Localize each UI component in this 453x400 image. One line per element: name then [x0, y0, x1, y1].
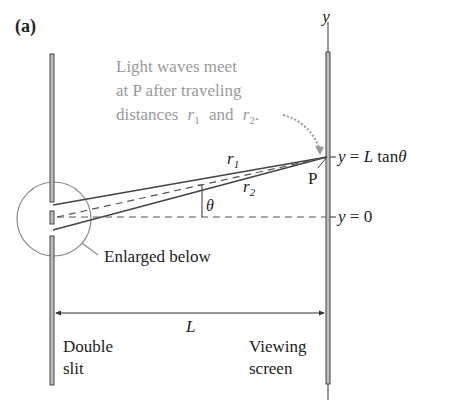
distance-label: L — [185, 317, 195, 336]
y-zero-label: y = 0 — [336, 207, 372, 226]
caption-line-2: at P after traveling — [116, 81, 242, 100]
point-p-label: P — [308, 169, 317, 188]
viewing-screen — [326, 52, 330, 384]
center-ray — [57, 157, 327, 217]
caption-line-1: Light waves meet — [116, 57, 237, 76]
y-axis-label: y — [320, 7, 330, 26]
distance-arrow-left-head — [55, 311, 61, 316]
ray-r2-label: r2 — [243, 177, 256, 198]
angle-theta-label: θ — [206, 197, 214, 214]
double-slit-label-2: slit — [63, 359, 84, 378]
ray-r2 — [53, 157, 327, 230]
enlarged-leader-line — [82, 243, 98, 255]
double-slit-label-1: Double — [63, 337, 113, 356]
screen-label-1: Viewing — [249, 337, 307, 356]
ray-r1 — [53, 157, 327, 205]
distance-arrow-right-head — [319, 311, 325, 316]
y-ltan-label: y = L tanθ — [336, 147, 407, 166]
panel-label: (a) — [15, 16, 36, 37]
caption: Light waves meet at P after traveling di… — [116, 57, 259, 128]
double-slit-barrier — [50, 54, 54, 385]
caption-arrow — [283, 115, 320, 150]
caption-arrow-head — [315, 146, 324, 155]
enlarged-label: Enlarged below — [104, 247, 212, 266]
screen-label-2: screen — [249, 359, 293, 378]
caption-line-3: distances r1 and r2. — [116, 105, 259, 128]
double-slit-diagram: (a) Light waves meet at P after travelin… — [0, 0, 453, 400]
ray-r1-label: r1 — [227, 149, 239, 170]
